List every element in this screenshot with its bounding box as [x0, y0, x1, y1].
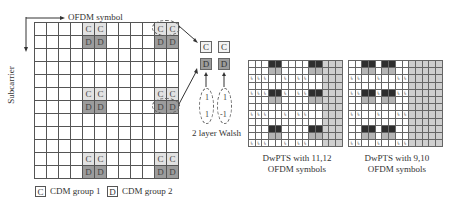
small-grid-cell: [436, 68, 443, 75]
small-grid-cell: [262, 68, 269, 75]
grid-cell: [59, 49, 71, 62]
small-grid-cell: [423, 126, 430, 133]
grid-cell: [71, 36, 83, 49]
small-grid-cell: [423, 104, 430, 111]
grid-cell: [119, 75, 131, 88]
small-grid-cell: [369, 97, 376, 104]
grid-cell: [47, 49, 59, 62]
dwpts-caption-9-10: DwPTS with 9,10 OFDM symbols: [350, 153, 444, 175]
grid-cell: [131, 153, 143, 166]
small-grid-cell: [429, 133, 436, 140]
small-grid-cell: ↳: [249, 111, 256, 118]
small-grid-cell: [389, 90, 396, 97]
small-grid-cell: [256, 126, 263, 133]
small-grid-cell: [356, 97, 363, 104]
grid-cell: C: [167, 153, 179, 166]
small-grid-cell: [309, 97, 316, 104]
small-grid-cell: [403, 126, 410, 133]
grid-cell: [35, 62, 47, 75]
small-grid-cell: [403, 97, 410, 104]
small-grid-cell: ↳: [303, 140, 310, 147]
small-grid-cell: [282, 61, 289, 68]
grid-cell: [107, 140, 119, 153]
small-grid-cell: [309, 119, 316, 126]
small-grid-cell: [416, 140, 423, 147]
small-grid-cell: [289, 61, 296, 68]
grid-cell: D: [95, 36, 107, 49]
small-grid-cell: [356, 68, 363, 75]
grid-cell: [155, 114, 167, 127]
small-grid-cell: [276, 61, 283, 68]
small-grid-cell: [282, 104, 289, 111]
small-grid-cell: ↳: [376, 111, 383, 118]
small-grid-cell: ↳: [282, 75, 289, 82]
dwpts-grid-11-12: ↳↳↳↳↳↳↳↳↳↳↳↳↳↳↳↳↳↳↳↳↳↳↳↳: [248, 60, 343, 147]
small-grid-cell: [309, 111, 316, 118]
small-grid-cell: [362, 90, 369, 97]
small-grid-cell: [256, 97, 263, 104]
grid-cell: [119, 127, 131, 140]
small-grid-cell: [436, 111, 443, 118]
grid-cell: [95, 140, 107, 153]
grid-cell: D: [167, 166, 179, 179]
grid-cell: [59, 36, 71, 49]
small-grid-cell: [289, 83, 296, 90]
small-grid-cell: [329, 90, 336, 97]
grid-cell: [107, 127, 119, 140]
small-grid-cell: [289, 75, 296, 82]
small-grid-cell: [289, 119, 296, 126]
grid-cell: [131, 75, 143, 88]
grid-cell: [83, 140, 95, 153]
small-grid-cell: ↳: [262, 75, 269, 82]
grid-cell: [107, 101, 119, 114]
small-grid-cell: [356, 133, 363, 140]
small-grid-cell: [249, 133, 256, 140]
grid-cell: [47, 23, 59, 36]
small-grid-cell: [323, 119, 330, 126]
small-grid-cell: [303, 97, 310, 104]
grid-cell: [71, 153, 83, 166]
grid-cell: [71, 166, 83, 179]
small-grid-cell: [349, 119, 356, 126]
grid-cell: [107, 23, 119, 36]
caption-line-2: OFDM symbols: [350, 164, 444, 175]
small-grid-cell: ↳: [303, 75, 310, 82]
small-grid-cell: [436, 97, 443, 104]
small-grid-cell: [336, 111, 343, 118]
grid-cell: [71, 101, 83, 114]
grid-cell: [47, 62, 59, 75]
grid-cell: [143, 153, 155, 166]
small-grid-cell: [336, 119, 343, 126]
walsh-code-2-a: 1: [223, 93, 227, 102]
grid-cell: [119, 23, 131, 36]
small-grid-cell: [329, 83, 336, 90]
small-grid-cell: [396, 119, 403, 126]
small-grid-cell: [396, 83, 403, 90]
small-grid-cell: ↳: [356, 90, 363, 97]
grid-cell: [107, 88, 119, 101]
grid-cell: [119, 114, 131, 127]
small-grid-cell: [409, 133, 416, 140]
grid-cell: [131, 62, 143, 75]
small-grid-cell: ↳: [376, 90, 383, 97]
grid-cell: [131, 140, 143, 153]
grid-cell: [95, 127, 107, 140]
small-grid-cell: ↳: [356, 75, 363, 82]
small-grid-cell: [416, 90, 423, 97]
walsh-c-box-1: C: [200, 41, 212, 53]
grid-cell: [131, 36, 143, 49]
small-grid-cell: [296, 119, 303, 126]
grid-cell: [59, 153, 71, 166]
small-grid-cell: [409, 140, 416, 147]
small-grid-cell: [369, 90, 376, 97]
small-grid-cell: [269, 75, 276, 82]
small-grid-cell: [269, 126, 276, 133]
small-grid-cell: [316, 75, 323, 82]
small-grid-cell: [316, 140, 323, 147]
grid-cell: [143, 62, 155, 75]
grid-cell: [35, 140, 47, 153]
small-grid-cell: [369, 133, 376, 140]
small-grid-cell: [249, 126, 256, 133]
small-grid-cell: [249, 104, 256, 111]
small-grid-cell: [409, 68, 416, 75]
